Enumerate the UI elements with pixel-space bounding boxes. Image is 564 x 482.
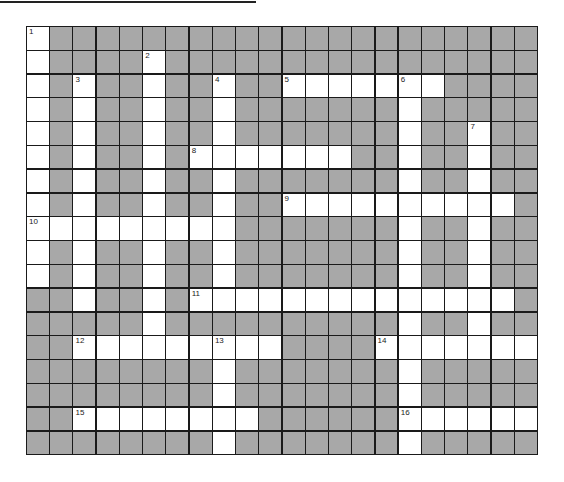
grid-cell-open[interactable]	[143, 241, 165, 264]
grid-cell-open[interactable]: 2	[143, 51, 165, 74]
grid-cell-open[interactable]	[143, 75, 165, 98]
grid-cell-open[interactable]	[143, 289, 165, 312]
grid-cell-open[interactable]	[190, 217, 212, 240]
grid-cell-open[interactable]	[73, 170, 95, 193]
grid-cell-open[interactable]: 10	[27, 217, 49, 240]
grid-cell-open[interactable]	[399, 146, 421, 169]
grid-cell-open[interactable]	[73, 122, 95, 145]
grid-cell-open[interactable]	[468, 146, 490, 169]
grid-cell-open[interactable]	[73, 194, 95, 217]
grid-cell-open[interactable]	[27, 241, 49, 264]
grid-cell-open[interactable]	[352, 289, 374, 312]
grid-cell-open[interactable]: 11	[190, 289, 212, 312]
grid-cell-open[interactable]	[492, 289, 514, 312]
grid-cell-open[interactable]	[143, 194, 165, 217]
grid-cell-open[interactable]	[468, 289, 490, 312]
grid-cell-open[interactable]	[236, 408, 258, 431]
grid-cell-open[interactable]	[283, 289, 305, 312]
grid-cell-open[interactable]: 5	[283, 75, 305, 98]
grid-cell-open[interactable]	[259, 336, 281, 359]
grid-cell-open[interactable]	[50, 217, 72, 240]
grid-cell-open[interactable]	[213, 98, 235, 121]
grid-cell-open[interactable]	[213, 360, 235, 383]
grid-cell-open[interactable]	[445, 336, 467, 359]
grid-cell-open[interactable]	[399, 241, 421, 264]
grid-cell-open[interactable]	[468, 336, 490, 359]
grid-cell-open[interactable]	[213, 194, 235, 217]
grid-cell-open[interactable]	[399, 265, 421, 288]
grid-cell-open[interactable]	[468, 241, 490, 264]
grid-cell-open[interactable]	[143, 170, 165, 193]
grid-cell-open[interactable]	[143, 98, 165, 121]
grid-cell-open[interactable]	[27, 194, 49, 217]
grid-cell-open[interactable]	[445, 408, 467, 431]
grid-cell-open[interactable]	[515, 336, 537, 359]
grid-cell-open[interactable]	[515, 408, 537, 431]
grid-cell-open[interactable]	[468, 170, 490, 193]
grid-cell-open[interactable]	[73, 98, 95, 121]
grid-cell-open[interactable]	[329, 289, 351, 312]
grid-cell-open[interactable]	[213, 217, 235, 240]
grid-cell-open[interactable]: 13	[213, 336, 235, 359]
grid-cell-open[interactable]	[27, 98, 49, 121]
grid-cell-open[interactable]: 12	[73, 336, 95, 359]
grid-cell-open[interactable]	[143, 122, 165, 145]
grid-cell-open[interactable]	[27, 75, 49, 98]
grid-cell-open[interactable]	[399, 432, 421, 455]
grid-cell-open[interactable]	[306, 146, 328, 169]
grid-cell-open[interactable]	[143, 146, 165, 169]
grid-cell-open[interactable]	[468, 265, 490, 288]
grid-cell-open[interactable]	[492, 194, 514, 217]
grid-cell-open[interactable]	[399, 98, 421, 121]
grid-cell-open[interactable]	[120, 217, 142, 240]
grid-cell-open[interactable]	[236, 146, 258, 169]
grid-cell-open[interactable]	[259, 146, 281, 169]
grid-cell-open[interactable]	[468, 408, 490, 431]
grid-cell-open[interactable]	[376, 289, 398, 312]
grid-cell-open[interactable]	[283, 146, 305, 169]
grid-cell-open[interactable]	[143, 217, 165, 240]
grid-cell-open[interactable]	[468, 194, 490, 217]
grid-cell-open[interactable]	[213, 384, 235, 407]
grid-cell-open[interactable]	[143, 265, 165, 288]
grid-cell-open[interactable]	[399, 289, 421, 312]
grid-cell-open[interactable]	[213, 432, 235, 455]
grid-cell-open[interactable]	[27, 122, 49, 145]
grid-cell-open[interactable]	[73, 217, 95, 240]
grid-cell-open[interactable]: 15	[73, 408, 95, 431]
grid-cell-open[interactable]	[97, 217, 119, 240]
grid-cell-open[interactable]: 6	[399, 75, 421, 98]
grid-cell-open[interactable]	[73, 241, 95, 264]
grid-cell-open[interactable]	[468, 313, 490, 336]
grid-cell-open[interactable]	[422, 336, 444, 359]
grid-cell-open[interactable]: 16	[399, 408, 421, 431]
grid-cell-open[interactable]	[166, 336, 188, 359]
grid-cell-open[interactable]	[422, 75, 444, 98]
grid-cell-open[interactable]	[190, 408, 212, 431]
grid-cell-open[interactable]: 7	[468, 122, 490, 145]
grid-cell-open[interactable]	[27, 265, 49, 288]
grid-cell-open[interactable]	[120, 408, 142, 431]
grid-cell-open[interactable]	[213, 241, 235, 264]
grid-cell-open[interactable]	[422, 408, 444, 431]
grid-cell-open[interactable]: 1	[27, 27, 49, 50]
grid-cell-open[interactable]	[306, 289, 328, 312]
grid-cell-open[interactable]	[213, 289, 235, 312]
grid-cell-open[interactable]	[190, 336, 212, 359]
grid-cell-open[interactable]	[73, 265, 95, 288]
grid-cell-open[interactable]	[399, 336, 421, 359]
grid-cell-open[interactable]	[445, 289, 467, 312]
grid-cell-open[interactable]	[166, 217, 188, 240]
grid-cell-open[interactable]	[468, 217, 490, 240]
grid-cell-open[interactable]	[236, 336, 258, 359]
grid-cell-open[interactable]	[422, 194, 444, 217]
grid-cell-open[interactable]	[399, 194, 421, 217]
grid-cell-open[interactable]: 3	[73, 75, 95, 98]
grid-cell-open[interactable]	[27, 51, 49, 74]
grid-cell-open[interactable]	[376, 194, 398, 217]
grid-cell-open[interactable]	[329, 146, 351, 169]
grid-cell-open[interactable]	[120, 336, 142, 359]
grid-cell-open[interactable]	[306, 194, 328, 217]
grid-cell-open[interactable]	[306, 75, 328, 98]
grid-cell-open[interactable]	[352, 194, 374, 217]
